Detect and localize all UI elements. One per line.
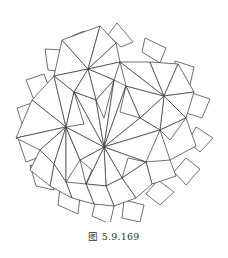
polyhedron-figure (0, 0, 228, 222)
polyhedron-drawing (0, 0, 228, 222)
main-facets (16, 26, 196, 206)
figure-caption: 图 5.9.169 (0, 229, 228, 243)
